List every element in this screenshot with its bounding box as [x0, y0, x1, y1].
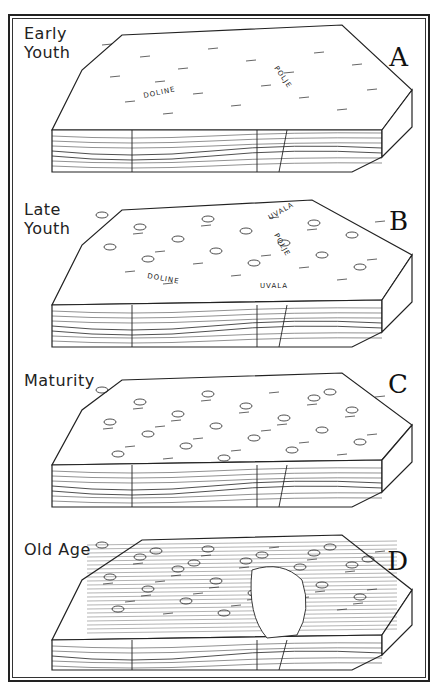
block-diagram-b: DOLINE UVALA UVALA POLJE — [12, 190, 426, 355]
surface-hatch — [375, 551, 385, 552]
stage-label-old-age: Old Age — [24, 540, 91, 559]
stage-label-early-youth: Early Youth — [24, 24, 71, 62]
stage-label-late-youth: Late Youth — [24, 200, 71, 238]
panel-letter-b: B — [389, 206, 408, 236]
sinkhole — [96, 387, 108, 393]
block-front-face — [52, 300, 382, 347]
panel-d: Old Age D — [12, 520, 426, 678]
surface-hatch — [375, 396, 385, 397]
panel-a: DOLINE POLJE Early Youth A — [12, 20, 426, 180]
block-b-shape — [52, 200, 412, 347]
block-a-shape — [52, 25, 412, 172]
annotation-uvala: UVALA — [260, 282, 288, 290]
block-front-face — [52, 460, 382, 507]
panel-c: Maturity C — [12, 365, 426, 515]
block-diagram-a: DOLINE POLJE — [12, 20, 426, 180]
stage-label-maturity: Maturity — [24, 371, 95, 390]
sinkhole — [96, 212, 108, 218]
block-top-surface — [52, 25, 412, 130]
block-d-shape — [52, 535, 412, 670]
panel-letter-a: A — [389, 42, 408, 72]
panel-b: DOLINE UVALA UVALA POLJE Late Youth B — [12, 190, 426, 355]
surface-hatch — [375, 221, 385, 222]
panel-letter-d: D — [387, 546, 408, 576]
panel-letter-c: C — [388, 369, 408, 399]
polje-floor — [251, 567, 306, 638]
block-top-surface — [52, 200, 412, 305]
block-top-surface — [52, 535, 412, 640]
block-c-shape — [52, 373, 412, 507]
